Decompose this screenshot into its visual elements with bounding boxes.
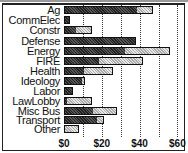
bar [64,77,85,85]
category-label: Constr [29,25,60,35]
bar-segment-dark [65,78,82,84]
bar [64,26,92,34]
bar-segment-light [93,108,116,114]
bar-segment-light [82,78,84,84]
top-border [0,0,188,2]
bar-segment-dark [65,7,137,13]
bar [64,67,113,75]
gridline [177,5,178,137]
bar-segment-light [67,98,91,104]
category-label: Other [34,124,60,134]
bar-segment-dark [65,68,84,74]
bar-segment-dark [65,88,72,94]
bar [64,87,73,95]
bar-segment-light [76,27,91,33]
bar-segment-light [84,68,112,74]
bar [64,47,170,55]
bar-segment-dark [65,48,125,54]
bar [64,107,117,115]
x-tick-label: $20 [93,138,110,149]
gridline [121,5,122,137]
bar-segment-light [99,58,142,64]
bar [64,37,136,45]
bar-segment-dark [65,17,69,23]
bar-segment-light [137,7,152,13]
bar [64,125,79,133]
bar-segment-dark [65,27,76,33]
bar-segment-light [125,48,168,54]
bar-segment-dark [65,38,135,44]
x-tick-label: $0 [58,138,69,149]
x-tick-label: $40 [131,138,148,149]
bar [64,6,153,14]
bar-segment-dark [65,108,93,114]
bar [64,97,92,105]
bar [64,57,143,65]
bar-segment-light [65,126,78,132]
x-tick-label: $60 [169,138,186,149]
bar-segment-dark [65,117,97,123]
bar [64,116,104,124]
bar-segment-light [97,117,103,123]
bar [64,16,70,24]
gridline [140,5,141,137]
gridline [159,5,160,137]
bar-segment-dark [65,58,99,64]
